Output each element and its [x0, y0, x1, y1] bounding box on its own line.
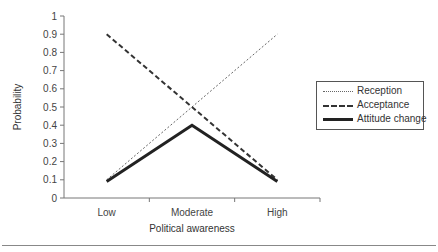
legend-label: Attitude change [357, 112, 427, 126]
y-axis-ticks: 00.10.20.30.40.50.60.70.80.91 [43, 11, 64, 204]
y-tick-label: 0.7 [43, 65, 57, 76]
x-tick-label: Low [97, 207, 116, 218]
y-tick-label: 1 [51, 11, 57, 22]
x-tick-label: Moderate [171, 207, 214, 218]
y-tick-label: 0 [51, 193, 57, 204]
y-axis-title: Probability [12, 84, 23, 131]
dotted-line-swatch-icon [323, 91, 353, 92]
y-tick-label: 0.6 [43, 83, 57, 94]
series-lines [107, 34, 278, 181]
y-tick-label: 0.2 [43, 156, 57, 167]
legend-label: Acceptance [357, 98, 409, 112]
x-axis-ticks: LowModerateHigh [97, 198, 320, 218]
x-tick-label: High [267, 207, 288, 218]
y-tick-label: 0.9 [43, 29, 57, 40]
y-tick-label: 0.3 [43, 138, 57, 149]
legend-item-acceptance: Acceptance [317, 98, 423, 112]
y-tick-label: 0.4 [43, 120, 57, 131]
y-tick-label: 0.1 [43, 174, 57, 185]
series-attitude-change [107, 125, 278, 181]
y-tick-label: 0.8 [43, 47, 57, 58]
legend-item-attitude-change: Attitude change [317, 112, 423, 126]
legend: Reception Acceptance Attitude change [316, 81, 424, 130]
solid-line-swatch-icon [323, 118, 353, 121]
y-tick-label: 0.5 [43, 102, 57, 113]
dashed-line-swatch-icon [323, 105, 353, 107]
bottom-divider [2, 245, 436, 246]
x-axis-title: Political awareness [149, 223, 235, 234]
legend-item-reception: Reception [317, 84, 423, 98]
legend-label: Reception [357, 84, 402, 98]
